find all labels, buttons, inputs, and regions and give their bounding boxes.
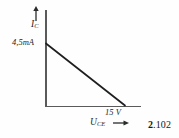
figure-number: 2.102 xyxy=(148,119,171,130)
figure-number-minor: .102 xyxy=(153,119,171,130)
x-axis xyxy=(45,106,141,108)
x-axis-subscript: CE xyxy=(97,120,105,127)
x-axis-symbol: U xyxy=(90,117,97,127)
y-intercept-label: 4,5mA xyxy=(12,38,34,47)
x-axis-label: UCE xyxy=(90,118,105,128)
y-axis xyxy=(45,10,47,107)
load-line-figure: IC 4,5mA 15 V UCE 2.102 xyxy=(0,0,179,138)
load-line-curve xyxy=(44,40,128,108)
x-intercept-label: 15 V xyxy=(105,108,121,117)
y-axis-subscript: C xyxy=(34,22,38,29)
y-axis-label: IC xyxy=(31,20,39,30)
arrow-right-icon xyxy=(113,118,129,128)
